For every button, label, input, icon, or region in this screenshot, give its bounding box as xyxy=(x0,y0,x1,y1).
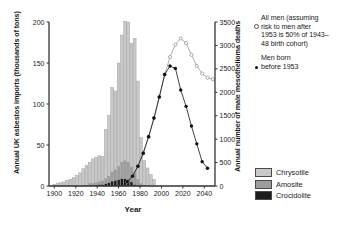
legend-row-amosite: Amosite xyxy=(255,180,311,189)
chart-figure: Annual UK asbestos imports (thousands of… xyxy=(0,0,348,225)
legend-label-crocidolite: Crocidolite xyxy=(276,191,311,200)
svg-text:500: 500 xyxy=(220,159,232,166)
svg-text:3000: 3000 xyxy=(220,42,236,49)
open-circle-marker-icon xyxy=(252,14,261,33)
legend-label-chrysotile: Chrysotile xyxy=(276,168,309,177)
swatch-crocidolite xyxy=(255,191,272,200)
legend-item-men-born-before-1953-text: Men born before 1953 xyxy=(261,54,298,71)
filled-dot-marker-icon xyxy=(252,54,261,73)
legend-item-all-men: All men (assuming risk to men after 1953… xyxy=(252,14,348,48)
legend-fibre-types: Chrysotile Amosite Crocidolite xyxy=(255,168,311,203)
svg-text:1940: 1940 xyxy=(89,190,105,197)
legend-row-crocidolite: Crocidolite xyxy=(255,191,311,200)
legend-label-amosite: Amosite xyxy=(276,180,303,189)
svg-text:0: 0 xyxy=(41,183,45,190)
legend-item-men-born-before-1953: Men born before 1953 xyxy=(252,54,348,73)
svg-text:100: 100 xyxy=(33,101,45,108)
legend-row-chrysotile: Chrysotile xyxy=(255,168,311,177)
svg-text:1900: 1900 xyxy=(47,190,63,197)
svg-text:50: 50 xyxy=(37,142,45,149)
svg-text:2040: 2040 xyxy=(197,190,213,197)
svg-text:2000: 2000 xyxy=(220,89,236,96)
swatch-chrysotile xyxy=(255,168,272,177)
legend-series: All men (assuming risk to men after 1953… xyxy=(252,14,348,79)
svg-text:1920: 1920 xyxy=(68,190,84,197)
svg-text:1960: 1960 xyxy=(111,190,127,197)
svg-text:3500: 3500 xyxy=(220,19,236,26)
svg-text:2500: 2500 xyxy=(220,65,236,72)
svg-text:2020: 2020 xyxy=(175,190,191,197)
svg-text:200: 200 xyxy=(33,19,45,26)
svg-text:2000: 2000 xyxy=(154,190,170,197)
legend-item-all-men-text: All men (assuming risk to men after 1953… xyxy=(261,14,329,48)
swatch-amosite xyxy=(255,180,272,189)
svg-text:0: 0 xyxy=(220,183,224,190)
svg-text:1980: 1980 xyxy=(132,190,148,197)
svg-text:150: 150 xyxy=(33,60,45,67)
svg-text:1000: 1000 xyxy=(220,136,236,143)
svg-text:1500: 1500 xyxy=(220,112,236,119)
